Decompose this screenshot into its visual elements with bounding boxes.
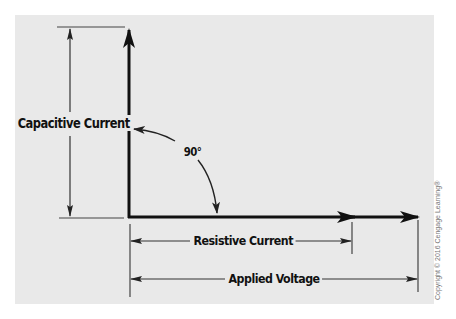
copyright-notice: Copyright © 2016 Cengage Learning® — [434, 181, 441, 300]
resistive-current-label: Resistive Current — [191, 233, 296, 248]
angle-arc — [134, 129, 217, 213]
applied-voltage-label: Applied Voltage — [226, 271, 322, 286]
capacitive-current-label: Capacitive Current — [16, 115, 131, 131]
angle-label: 90° — [182, 145, 203, 159]
